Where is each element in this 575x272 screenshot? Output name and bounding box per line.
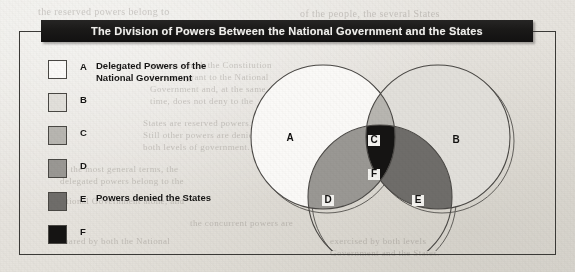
legend-swatch-a	[48, 60, 67, 79]
legend-item-a: ADelegated Powers of the National Govern…	[48, 58, 248, 91]
legend-key-a: A	[80, 61, 87, 72]
legend-swatch-e	[48, 192, 67, 211]
legend-item-b: B	[48, 91, 248, 124]
legend-item-f: F	[48, 223, 248, 256]
venn-label-e: E	[415, 194, 422, 205]
figure-title: The Division of Powers Between the Natio…	[91, 25, 483, 37]
venn-diagram: ABCDEF	[228, 55, 548, 251]
legend-swatch-f	[48, 225, 67, 244]
venn-label-a: A	[286, 132, 293, 143]
legend-swatch-d	[48, 159, 67, 178]
legend: ADelegated Powers of the National Govern…	[48, 58, 248, 256]
scanned-page: the reserved powers belong toof the peop…	[0, 0, 575, 272]
venn-label-b: B	[452, 134, 459, 145]
venn-label-f: F	[371, 168, 377, 179]
legend-item-c: C	[48, 124, 248, 157]
bleedthrough-line: of the people, the several States	[300, 8, 440, 19]
figure-title-bar: The Division of Powers Between the Natio…	[41, 20, 533, 42]
venn-label-d: D	[324, 194, 331, 205]
legend-item-d: D	[48, 157, 248, 190]
legend-swatch-b	[48, 93, 67, 112]
bleedthrough-line: the reserved powers belong to	[38, 6, 170, 17]
legend-key-f: F	[80, 226, 86, 237]
legend-swatch-c	[48, 126, 67, 145]
legend-item-e: EPowers denied the States	[48, 190, 248, 223]
legend-key-b: B	[80, 94, 87, 105]
legend-key-e: E	[80, 193, 86, 204]
venn-label-c: C	[370, 134, 377, 145]
legend-key-c: C	[80, 127, 87, 138]
legend-key-d: D	[80, 160, 87, 171]
legend-label-a: Delegated Powers of the National Governm…	[96, 60, 246, 83]
legend-label-e: Powers denied the States	[96, 192, 246, 204]
